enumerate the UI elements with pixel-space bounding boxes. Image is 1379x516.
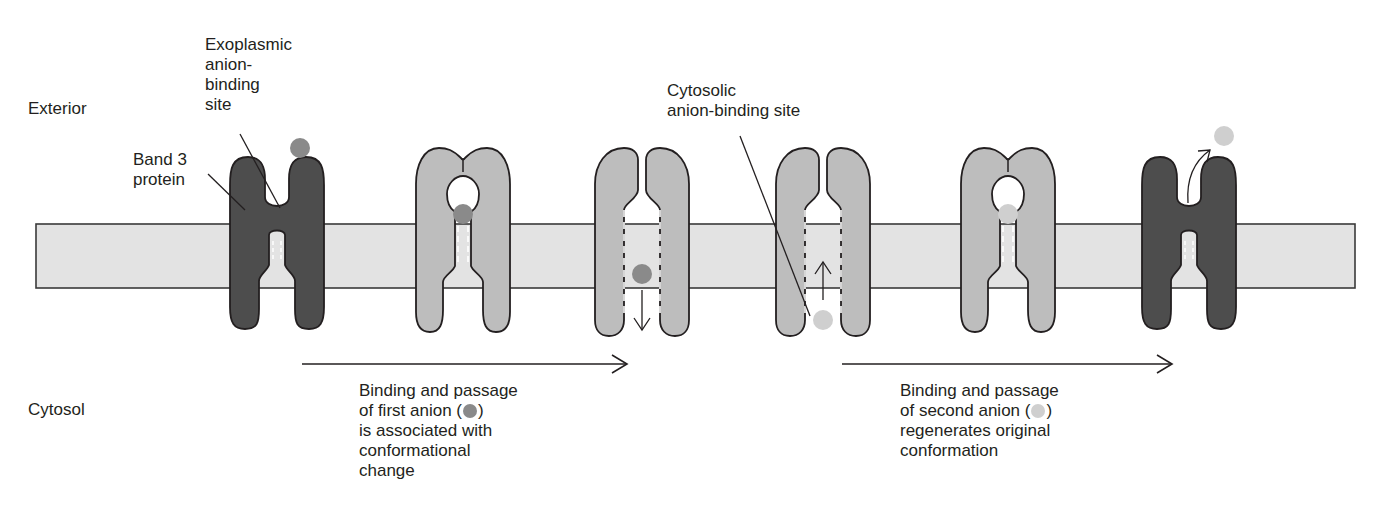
first-anion-bound — [453, 204, 473, 224]
exoplasmic-label-line: anion- — [205, 55, 292, 75]
band3-label-line: protein — [133, 170, 187, 190]
band3-label-line: Band 3 — [133, 150, 187, 170]
second-anion-legend-icon — [1031, 404, 1045, 418]
caption-text: of first anion ( — [359, 401, 462, 420]
cytosolic-label-line: Cytosolic — [667, 81, 800, 101]
caption-line: conformational — [359, 441, 518, 461]
caption-line: of second anion () — [900, 401, 1059, 421]
exoplasmic-label-line: site — [205, 95, 292, 115]
cytosol-label: Cytosol — [28, 400, 85, 420]
caption-line: Binding and passage — [359, 381, 518, 401]
exoplasmic-label-line: Exoplasmic — [205, 35, 292, 55]
caption-line: change — [359, 461, 518, 481]
caption-second-anion: Binding and passage of second anion () r… — [900, 381, 1059, 461]
exoplasmic-site-label: Exoplasmic anion- binding site — [205, 35, 292, 115]
first-anion-legend-icon — [463, 404, 477, 418]
process-arrow-second — [842, 355, 1172, 373]
caption-line: is associated with — [359, 421, 518, 441]
first-anion-release — [632, 264, 652, 284]
process-arrow-first — [302, 355, 627, 373]
band3-protein-label: Band 3 protein — [133, 150, 187, 190]
caption-line: conformation — [900, 441, 1059, 461]
caption-text: ) — [478, 401, 484, 420]
cytosolic-label-line: anion-binding site — [667, 101, 800, 121]
first-anion-outside — [290, 138, 310, 158]
cytosolic-site-label: Cytosolic anion-binding site — [667, 81, 800, 121]
caption-text: of second anion ( — [900, 401, 1030, 420]
caption-text: ) — [1046, 401, 1052, 420]
second-anion-bound — [998, 204, 1018, 224]
second-anion-entering — [813, 310, 833, 330]
exoplasmic-label-line: binding — [205, 75, 292, 95]
down-arrow-icon — [634, 290, 650, 330]
second-anion-released — [1214, 126, 1234, 146]
caption-first-anion: Binding and passage of first anion () is… — [359, 381, 518, 481]
caption-line: Binding and passage — [900, 381, 1059, 401]
caption-line: regenerates original — [900, 421, 1059, 441]
caption-line: of first anion () — [359, 401, 518, 421]
exterior-label: Exterior — [28, 99, 87, 119]
